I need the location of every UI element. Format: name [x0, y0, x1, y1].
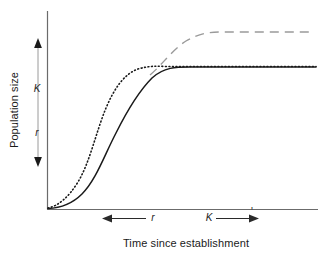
y-axis-range-arrow — [34, 38, 42, 167]
y-arrow-head-up — [34, 38, 42, 48]
y-axis-label-r: r — [35, 128, 38, 138]
x-axis-phase-label-r: r — [151, 213, 154, 223]
x-axis-phase-label-K: K — [206, 213, 213, 223]
curve-delayed-growth — [48, 67, 316, 209]
x-axis-title: Time since establishment — [123, 238, 249, 249]
y-arrow-head-down — [34, 157, 42, 167]
y-axis-title: Population size — [9, 72, 20, 148]
axis-lines — [47, 11, 318, 210]
plot-canvas — [0, 0, 328, 257]
r-arrow-head-left — [102, 215, 112, 223]
y-axis-label-K: K — [34, 84, 41, 94]
population-growth-figure: Population size Time since establishment… — [0, 0, 328, 257]
x-axis-phase-label-K-prime: ' — [251, 207, 253, 217]
x-axis-r-phase-arrow — [102, 215, 146, 223]
curve-raised-carrying-capacity — [150, 32, 313, 75]
